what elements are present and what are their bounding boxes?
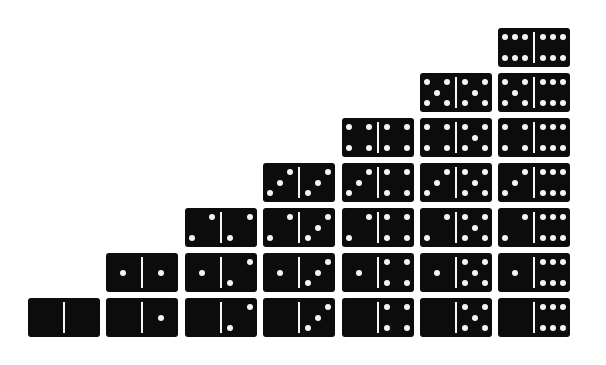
- pip-icon: [462, 169, 468, 175]
- right-half-6: [536, 28, 570, 67]
- pip-icon: [502, 34, 508, 40]
- left-half-3: [263, 163, 297, 202]
- left-half-0: [28, 298, 62, 337]
- right-half-5: [458, 298, 492, 337]
- left-half-0: [106, 298, 140, 337]
- pip-icon: [462, 304, 468, 310]
- pip-icon: [540, 235, 546, 241]
- pip-icon: [444, 79, 450, 85]
- pip-icon: [560, 169, 566, 175]
- pip-icon: [550, 304, 556, 310]
- domino-1-1: [106, 253, 178, 292]
- left-half-0: [342, 298, 376, 337]
- pip-icon: [424, 145, 430, 151]
- pip-icon: [540, 325, 546, 331]
- right-half-2: [223, 208, 257, 247]
- pip-icon: [472, 135, 478, 141]
- pip-icon: [522, 214, 528, 220]
- pip-icon: [424, 124, 430, 130]
- pip-icon: [522, 55, 528, 61]
- pip-icon: [462, 190, 468, 196]
- left-half-1: [185, 253, 219, 292]
- pip-icon: [472, 180, 478, 186]
- pip-icon: [384, 325, 390, 331]
- pip-icon: [540, 100, 546, 106]
- left-half-4: [420, 118, 454, 157]
- pip-icon: [502, 55, 508, 61]
- right-half-6: [536, 298, 570, 337]
- right-half-6: [536, 208, 570, 247]
- divider-line: [220, 212, 222, 243]
- pip-icon: [424, 79, 430, 85]
- right-half-6: [536, 73, 570, 112]
- pip-icon: [560, 325, 566, 331]
- pip-icon: [315, 315, 321, 321]
- pip-icon: [560, 280, 566, 286]
- pip-icon: [404, 214, 410, 220]
- pip-icon: [550, 190, 556, 196]
- left-half-1: [263, 253, 297, 292]
- right-half-0: [66, 298, 100, 337]
- pip-icon: [305, 325, 311, 331]
- domino-2-6: [498, 208, 570, 247]
- pip-icon: [227, 280, 233, 286]
- pip-icon: [404, 235, 410, 241]
- divider-line: [141, 257, 143, 288]
- pip-icon: [434, 90, 440, 96]
- pip-icon: [560, 190, 566, 196]
- right-half-5: [458, 208, 492, 247]
- left-half-0: [185, 298, 219, 337]
- domino-4-6: [498, 118, 570, 157]
- pip-icon: [325, 259, 331, 265]
- right-half-5: [458, 73, 492, 112]
- right-half-4: [380, 118, 414, 157]
- domino-1-6: [498, 253, 570, 292]
- domino-0-5: [420, 298, 492, 337]
- pip-icon: [404, 190, 410, 196]
- pip-icon: [522, 100, 528, 106]
- pip-icon: [444, 100, 450, 106]
- domino-3-3: [263, 163, 335, 202]
- divider-line: [141, 302, 143, 333]
- divider-line: [377, 167, 379, 198]
- pip-icon: [560, 145, 566, 151]
- right-half-1: [144, 298, 178, 337]
- pip-icon: [305, 280, 311, 286]
- pip-icon: [560, 100, 566, 106]
- divider-line: [455, 212, 457, 243]
- divider-line: [220, 257, 222, 288]
- left-half-5: [420, 73, 454, 112]
- divider-line: [377, 212, 379, 243]
- pip-icon: [550, 124, 556, 130]
- pip-icon: [560, 214, 566, 220]
- pip-icon: [277, 270, 283, 276]
- left-half-3: [342, 163, 376, 202]
- left-half-1: [498, 253, 532, 292]
- pip-icon: [522, 145, 528, 151]
- pip-icon: [346, 190, 352, 196]
- pip-icon: [346, 235, 352, 241]
- pip-icon: [356, 270, 362, 276]
- divider-line: [377, 302, 379, 333]
- pip-icon: [502, 124, 508, 130]
- right-half-3: [301, 298, 335, 337]
- divider-line: [298, 167, 300, 198]
- pip-icon: [482, 169, 488, 175]
- pip-icon: [540, 34, 546, 40]
- pip-icon: [199, 270, 205, 276]
- pip-icon: [305, 190, 311, 196]
- pip-icon: [522, 34, 528, 40]
- pip-icon: [512, 180, 518, 186]
- domino-3-4: [342, 163, 414, 202]
- pip-icon: [384, 304, 390, 310]
- right-half-6: [536, 118, 570, 157]
- pip-icon: [325, 169, 331, 175]
- pip-icon: [404, 124, 410, 130]
- pip-icon: [315, 225, 321, 231]
- pip-icon: [434, 270, 440, 276]
- pip-icon: [424, 100, 430, 106]
- pip-icon: [346, 145, 352, 151]
- pip-icon: [462, 79, 468, 85]
- pip-icon: [462, 325, 468, 331]
- pip-icon: [404, 280, 410, 286]
